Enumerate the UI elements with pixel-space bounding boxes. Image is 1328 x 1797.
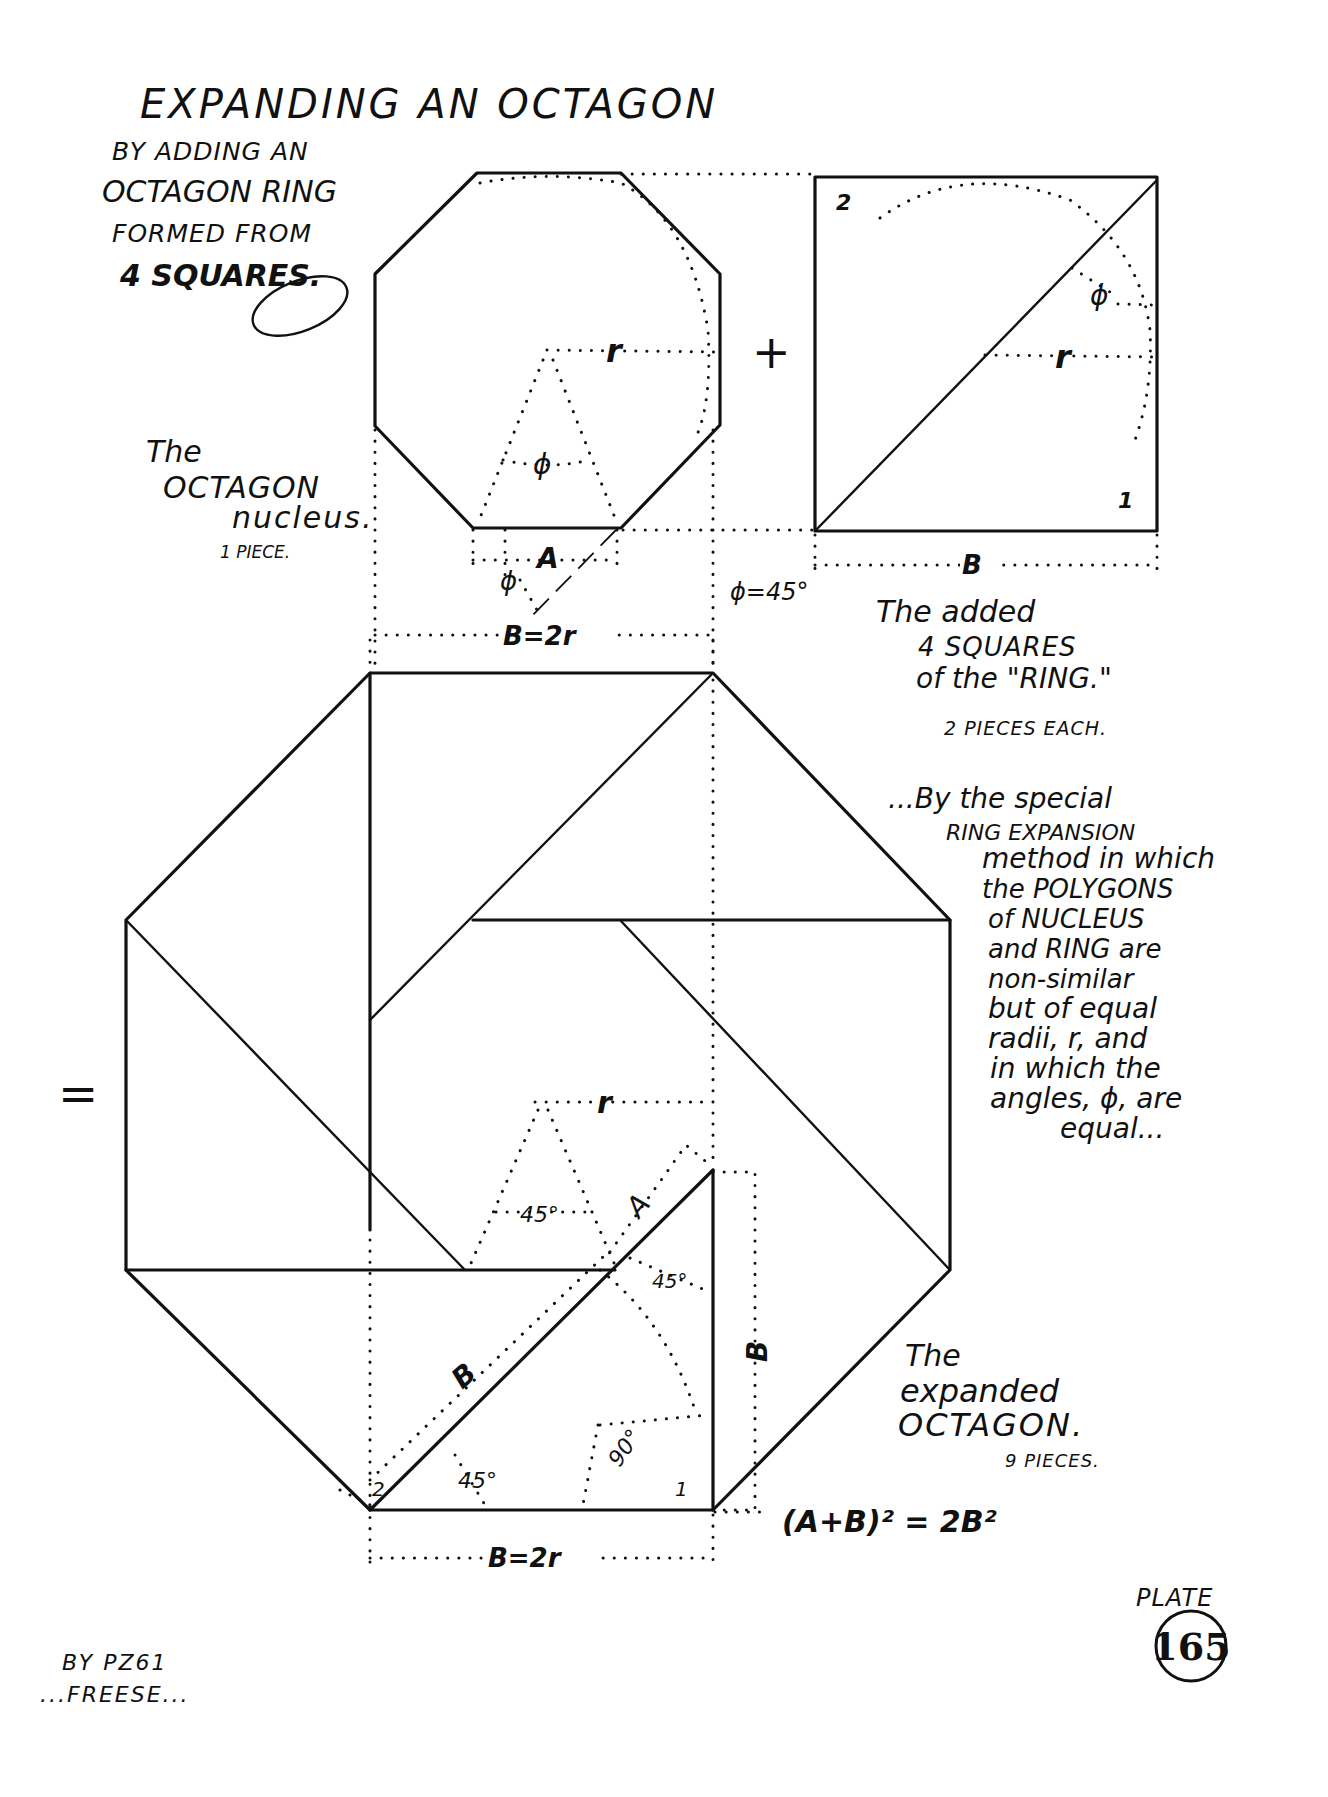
square-caption-line-2: 4 SQUARES — [918, 632, 1077, 662]
angle-90-dots — [582, 1415, 708, 1510]
description-line-6: and RING are — [988, 934, 1161, 964]
expanded-octagon: r 45° A 45° B B 90° 45° 2 1 B=2r — [126, 640, 950, 1573]
square-caption-line-3: of the "RING." — [916, 662, 1112, 695]
description-line-5: of NUCLEUS — [988, 904, 1144, 934]
subtitle-line-1: BY ADDING AN — [112, 137, 309, 166]
description-line-12: equal... — [1060, 1112, 1164, 1145]
description-line-4: the POLYGONS — [982, 874, 1174, 904]
expanded-piece-label-1: 1 — [675, 1477, 688, 1501]
nucleus-label-A: A — [535, 542, 559, 575]
expanded-piece-label-2: 2 — [372, 1477, 385, 1501]
b-diagonal-dots — [370, 1255, 605, 1480]
square-caption-line-1: The added — [876, 594, 1036, 629]
inner-diagonal-right — [620, 920, 950, 1270]
equals-operator: = — [58, 1065, 98, 1121]
center-triangle — [478, 360, 617, 523]
square-dimension-label: B — [962, 550, 982, 580]
signature-line-1: BY PZ61 — [62, 1650, 167, 1675]
plus-operator: + — [752, 325, 791, 379]
description-block: ...By the special RING EXPANSION method … — [888, 782, 1215, 1145]
nucleus-pieces: 1 PIECE. — [220, 542, 290, 562]
signature-line-2: ...FREESE... — [40, 1682, 190, 1707]
expanded-triangle — [468, 1110, 617, 1270]
description-line-10: in which the — [990, 1052, 1161, 1085]
square-piece-label-1: 1 — [1118, 488, 1133, 513]
description-line-3: method in which — [982, 842, 1215, 875]
expanded-angle-45-a: 45° — [520, 1202, 559, 1227]
square-pieces: 2 PIECES EACH. — [944, 717, 1107, 739]
expanded-caption: The expanded OCTAGON. 9 PIECES. (A+B)² =… — [782, 1338, 1100, 1539]
square-radius-arc — [880, 184, 1150, 440]
radius-arc — [480, 177, 709, 436]
square-caption: The added 4 SQUARES of the "RING." 2 PIE… — [876, 594, 1112, 739]
expanded-label-r: r — [597, 1085, 614, 1120]
title-block: EXPANDING AN OCTAGON BY ADDING AN OCTAGO… — [102, 81, 718, 348]
expanded-angle-45-c: 45° — [458, 1468, 497, 1493]
expanded-angle-45-b: 45° — [652, 1269, 687, 1293]
expanded-label-A: A — [618, 1188, 657, 1225]
phi-dots — [520, 580, 537, 610]
expanded-caption-line-1: The — [905, 1338, 961, 1373]
expanded-angle-90: 90° — [603, 1425, 646, 1471]
area-formula: (A+B)² = 2B² — [782, 1504, 997, 1539]
expanded-label-B-diagonal: B — [445, 1356, 483, 1395]
plate-label: PLATE — [1136, 1584, 1213, 1612]
ring-square: 2 1 r ϕ B ϕ=45° — [730, 177, 1157, 606]
square-phi-dots — [1072, 268, 1155, 305]
nucleus-caption: The OCTAGON nucleus. 1 PIECE. — [146, 434, 374, 562]
description-line-8: but of equal — [988, 992, 1157, 1025]
description-line-11: angles, ϕ, are — [990, 1082, 1182, 1115]
square-piece-label-2: 2 — [836, 190, 851, 215]
nucleus-dimension-label: B=2r — [503, 621, 578, 651]
expanded-dimension-label: B=2r — [488, 1543, 563, 1573]
square-label-r: r — [1055, 338, 1073, 376]
subtitle-line-4: 4 SQUARES. — [119, 258, 321, 293]
inner-diagonal-top — [370, 673, 713, 1020]
nucleus-caption-line-1: The — [146, 434, 202, 469]
square-label-phi: ϕ — [1090, 279, 1108, 312]
description-line-7: non-similar — [988, 964, 1136, 994]
inner-diagonal-left — [126, 920, 465, 1270]
plate-diagram: EXPANDING AN OCTAGON BY ADDING AN OCTAGO… — [0, 0, 1328, 1797]
subtitle-line-2: OCTAGON RING — [102, 174, 337, 209]
plate-number-block: PLATE 165 — [1136, 1584, 1231, 1681]
description-line-1: ...By the special — [888, 782, 1112, 815]
nucleus-label-phi: ϕ — [533, 448, 551, 481]
description-line-9: radii, r, and — [988, 1022, 1147, 1055]
plate-number: 165 — [1151, 1624, 1230, 1669]
expanded-outline — [126, 673, 950, 1510]
page-title: EXPANDING AN OCTAGON — [140, 81, 718, 127]
phi-equals-45: ϕ=45° — [730, 578, 808, 606]
subtitle-line-3: FORMED FROM — [112, 219, 312, 248]
expanded-vertical-guides — [370, 640, 713, 1570]
expanded-caption-line-3: OCTAGON. — [898, 1406, 1084, 1444]
nucleus-label-r: r — [606, 332, 624, 370]
nucleus-label-phi-small: ϕ — [500, 566, 517, 596]
expanded-label-B-vertical: B — [741, 1341, 774, 1362]
signature-block: BY PZ61 ...FREESE... — [40, 1650, 190, 1707]
expanded-caption-line-2: expanded — [900, 1372, 1060, 1410]
expanded-pieces: 9 PIECES. — [1005, 1450, 1100, 1471]
radius-line — [547, 350, 716, 352]
nucleus-caption-line-3: nucleus. — [232, 500, 374, 535]
